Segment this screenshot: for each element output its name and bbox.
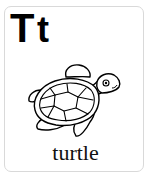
lowercase-letter: t	[37, 9, 49, 50]
uppercase-letter: T	[10, 6, 34, 50]
word-label: turtle	[0, 140, 151, 166]
letter-heading: Tt	[10, 10, 48, 48]
